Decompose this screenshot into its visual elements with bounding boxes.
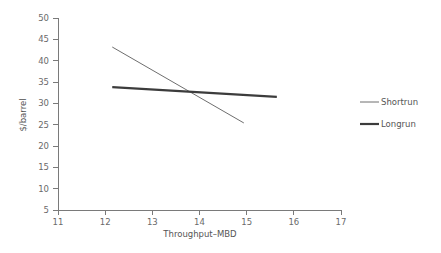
y-tick-label: 5	[44, 205, 49, 215]
y-tick-label: 40	[38, 56, 49, 66]
x-axis-tick-labels: 11121314151617	[53, 217, 347, 227]
data-series-group	[112, 47, 277, 123]
series-line-shortrun	[112, 47, 244, 123]
y-tick-label: 20	[38, 141, 49, 151]
x-tick-label: 13	[147, 217, 158, 227]
x-tick-label: 11	[53, 217, 64, 227]
x-axis-title: Throughput–MBD	[162, 229, 237, 239]
series-line-longrun	[112, 87, 277, 97]
x-tick-label: 17	[336, 217, 347, 227]
y-tick-label: 35	[38, 77, 49, 87]
x-axis: 11121314151617 Throughput–MBD	[53, 210, 347, 239]
line-chart: 5101520253035404550 $/barrel 11121314151…	[0, 0, 441, 253]
x-tick-label: 15	[241, 217, 252, 227]
legend-label-shortrun: Shortrun	[381, 97, 418, 107]
y-tick-label: 25	[38, 120, 49, 130]
y-tick-label: 45	[38, 34, 49, 44]
y-tick-label: 50	[38, 13, 49, 23]
legend: ShortrunLongrun	[360, 97, 418, 129]
y-tick-label: 30	[38, 98, 49, 108]
y-axis-title: $/barrel	[18, 98, 28, 131]
y-axis: 5101520253035404550 $/barrel	[18, 13, 58, 215]
chart-container: 5101520253035404550 $/barrel 11121314151…	[0, 0, 441, 253]
legend-label-longrun: Longrun	[381, 119, 416, 129]
y-tick-label: 10	[38, 184, 49, 194]
y-axis-tick-labels: 5101520253035404550	[38, 13, 49, 215]
y-axis-ticks	[53, 18, 58, 210]
y-tick-label: 15	[38, 162, 49, 172]
x-axis-ticks	[58, 210, 341, 215]
x-tick-label: 14	[194, 217, 205, 227]
x-tick-label: 16	[288, 217, 299, 227]
x-tick-label: 12	[100, 217, 111, 227]
